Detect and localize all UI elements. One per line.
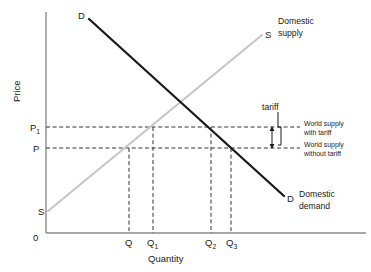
legend-with-tariff-line1: World supply [304,120,344,128]
world-supply-lines [46,127,300,148]
world-supply-with-tariff-legend: World supply with tariff [303,120,344,136]
y-axis-label: Price [11,80,22,102]
diagram-canvas: Price Quantity 0 P1 P Q Q1 Q2 [0,0,371,272]
price-tick-labels: P1 P [30,122,40,154]
quantity-tick-q: Q [125,237,132,248]
tariff-bracket [278,127,281,145]
legend-without-tariff-line1: World supply [304,141,344,149]
supply-curve-letter-top: S [265,29,271,40]
quantity-tick-labels: Q Q1 Q2 Q3 [125,237,237,250]
origin-label: 0 [33,232,38,243]
price-tick-p: P [33,143,39,154]
world-supply-without-tariff-legend: World supply without tariff [303,141,344,157]
supply-curve-caption: Domestic supply [278,16,315,38]
tariff-arrow-group [270,112,281,149]
quantity-tick-q3: Q3 [226,237,237,250]
demand-curve-letter-bottom: D [287,193,294,204]
tariff-label: tariff [262,102,279,112]
legend-with-tariff-line2: with tariff [303,129,332,136]
demand-caption-line2: demand [299,201,330,211]
supply-caption-line1: Domestic [278,16,315,26]
domestic-supply-curve [48,35,262,211]
price-tick-p1: P1 [30,122,40,135]
quantity-tick-q2: Q2 [205,237,216,250]
quantity-drop-lines [129,127,231,233]
supply-curve-letter-bottom: S [38,206,44,217]
supply-caption-line2: supply [278,28,304,38]
x-axis-label: Quantity [148,253,184,264]
legend-without-tariff-line2: without tariff [303,150,341,157]
demand-curve-caption: Domestic demand [299,189,336,211]
domestic-demand-curve [89,19,284,196]
tariff-diagram: Price Quantity 0 P1 P Q Q1 Q2 [0,0,371,272]
demand-curve-letter-top: D [78,10,85,21]
quantity-tick-q1: Q1 [147,237,158,250]
demand-caption-line1: Domestic [299,189,336,199]
